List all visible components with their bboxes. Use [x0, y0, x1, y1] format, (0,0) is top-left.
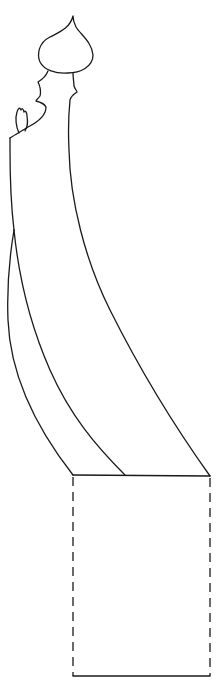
figure-drawing	[0, 0, 220, 682]
body-left-edge	[10, 138, 14, 230]
hand-outline	[16, 108, 27, 133]
body-panel-outer	[8, 230, 73, 475]
face-profile	[10, 71, 48, 138]
body-back-line	[69, 73, 210, 476]
head-outline	[39, 16, 93, 73]
figure-template	[0, 0, 220, 682]
base-box-top	[73, 475, 210, 476]
body-panel-inner	[14, 230, 125, 475]
